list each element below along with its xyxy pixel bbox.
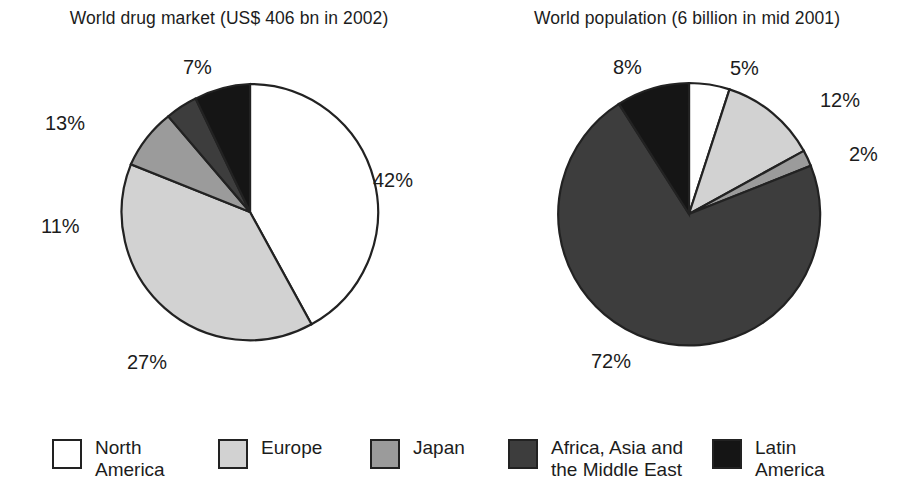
left-label-japan: 11% (41, 216, 80, 236)
left-label-north-america: 42% (373, 170, 413, 190)
right-pie-chart (558, 83, 820, 345)
legend-label-latin-america: Latin America (755, 437, 825, 481)
right-label-latin-america: 8% (613, 57, 642, 77)
legend-swatch-latin-america-icon (712, 439, 742, 469)
legend-label-japan: Japan (413, 437, 465, 459)
legend-swatch-north-america-icon (52, 439, 82, 469)
legend-swatch-europe-icon (218, 439, 248, 469)
legend-item-north-america: North America (52, 437, 165, 481)
legend-item-latin-america: Latin America (712, 437, 825, 481)
legend-swatch-japan-icon (370, 439, 400, 469)
legend-item-japan: Japan (370, 437, 465, 469)
left-pie-svg (122, 84, 378, 340)
legend-label-europe: Europe (261, 437, 322, 459)
right-label-japan: 2% (849, 144, 878, 164)
left-chart-title: World drug market (US$ 406 bn in 2002) (0, 8, 458, 29)
pie-charts-figure: World drug market (US$ 406 bn in 2002) 4… (0, 0, 916, 503)
right-chart-panel: World population (6 billion in mid 2001)… (458, 0, 916, 415)
legend: North America Europe Japan Africa, Asia … (0, 427, 916, 503)
left-chart-panel: World drug market (US$ 406 bn in 2002) 4… (0, 0, 458, 415)
right-label-north-america: 5% (730, 58, 759, 78)
legend-item-africa-asia-middle-east: Africa, Asia and the Middle East (508, 437, 683, 481)
legend-item-europe: Europe (218, 437, 322, 469)
right-chart-title: World population (6 billion in mid 2001) (458, 8, 916, 29)
right-pie-svg (558, 83, 820, 345)
left-label-europe: 27% (127, 352, 167, 372)
right-label-africa-asia-middle-east: 72% (591, 351, 631, 371)
right-label-europe: 12% (820, 90, 860, 110)
left-label-latin-america: 7% (183, 57, 212, 77)
legend-label-africa-asia-middle-east: Africa, Asia and the Middle East (551, 437, 683, 481)
left-pie-chart (122, 84, 378, 340)
legend-label-north-america: North America (95, 437, 165, 481)
legend-swatch-africa-asia-middle-east-icon (508, 439, 538, 469)
left-label-africa-asia-middle-east: 13% (45, 113, 85, 133)
